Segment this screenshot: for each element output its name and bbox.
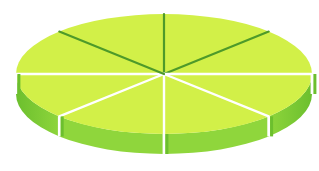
slice-side-shadow: [61, 116, 64, 136]
slice-cut-lines: [16, 14, 312, 134]
slice-side-shadow: [165, 134, 168, 154]
slice-side-gap: [58, 116, 61, 136]
slice-side-shadow: [270, 116, 273, 136]
slice-side-gap: [267, 116, 270, 136]
pie-disc-graphic: [0, 0, 319, 171]
slice-side-shadow: [313, 74, 316, 94]
pie-disc-figure: [0, 0, 319, 171]
slice-side-gap: [311, 74, 314, 94]
slice-side-gap: [163, 134, 166, 154]
slice-side-gap: [15, 74, 18, 94]
slice-side-shadow: [17, 74, 20, 94]
